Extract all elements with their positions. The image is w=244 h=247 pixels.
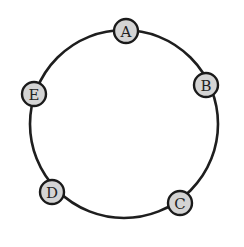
node-a-label: A: [120, 23, 132, 41]
node-e-label: E: [29, 86, 40, 104]
node-d: D: [40, 180, 64, 204]
node-e: E: [22, 82, 46, 106]
node-b-label: B: [200, 77, 211, 95]
node-d-label: D: [46, 184, 58, 202]
ring-diagram: A B C D E: [0, 0, 244, 247]
node-a: A: [114, 19, 138, 43]
node-c: C: [168, 191, 192, 215]
node-b: B: [194, 73, 218, 97]
node-c-label: C: [174, 195, 185, 213]
